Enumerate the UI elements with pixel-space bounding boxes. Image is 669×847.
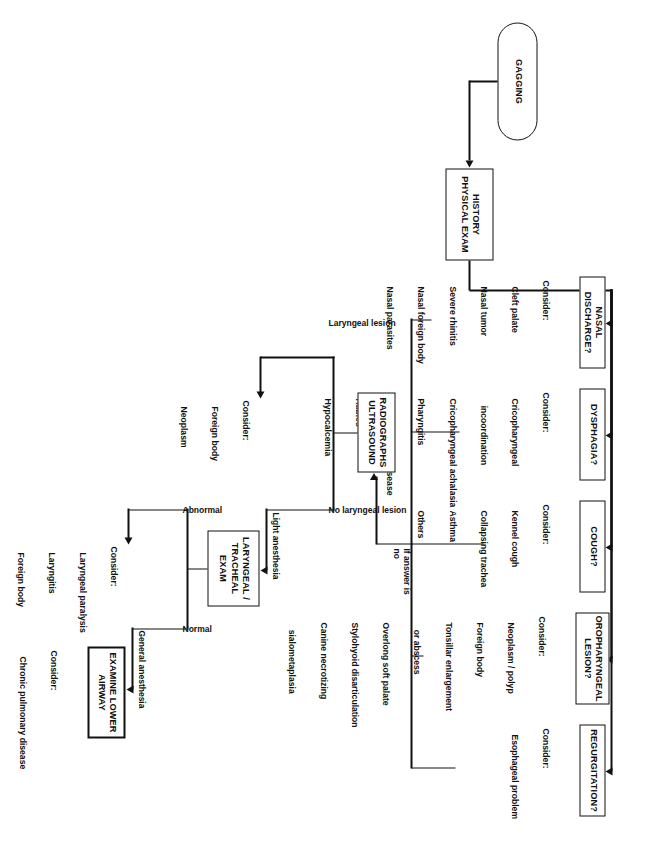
connector-stub-q5 <box>610 289 612 771</box>
consider-item: Asthma <box>446 504 456 587</box>
node-gagging[interactable]: GAGGING <box>497 22 537 140</box>
node-laryngeal-tracheal-exam[interactable]: LARYNGEAL / TRACHEAL EXAM <box>207 530 259 606</box>
arrowhead-to-lower-airway <box>126 685 133 693</box>
consider-item: Collapsing trachea <box>477 504 487 587</box>
node-oropharyngeal-lesion[interactable]: OROPHARYNGEAL LESION? <box>575 612 609 704</box>
connector-bus-drop-q2 <box>411 431 459 433</box>
label-laryngeal-lesion-text: Laryngeal lesion <box>328 317 395 327</box>
consider-header: Consider: <box>48 650 58 769</box>
label-light-anesthesia: Light anesthesia <box>270 512 280 579</box>
connector-imaging-split <box>332 356 334 510</box>
consider-item: Neoplasm / polyp <box>505 616 515 727</box>
consider-cough: Consider: Kennel cough Collapsing trache… <box>394 504 571 587</box>
connector-bus-drop-q3 <box>411 543 483 545</box>
node-nasal-discharge-label: NASAL DISCHARGE? <box>581 280 604 364</box>
consider-regurgitation: Consider: Esophageal problem <box>488 728 571 819</box>
consider-item: Chronic pulmonary disease <box>17 650 27 769</box>
node-regurgitation[interactable]: REGURGITATION? <box>579 724 605 816</box>
consider-item: Nasal tumor <box>477 280 487 363</box>
consider-lower-airway: Consider: Chronic pulmonary disease Feli… <box>0 650 79 769</box>
arrowhead-to-laryngeal-exam <box>260 566 267 574</box>
label-general-anesthesia: General anesthesia <box>136 630 146 708</box>
label-no-laryngeal-lesion: No laryngeal lesion <box>328 505 406 515</box>
consider-item: Others <box>415 504 425 587</box>
connector-no-laryngeal-lesion <box>266 509 334 511</box>
label-laryngeal-lesion: Laryngeal lesion <box>328 318 395 328</box>
node-dysphagia-label: DYSPHAGIA? <box>586 403 598 464</box>
label-if-answer-is-no-text: If answer is no <box>391 548 411 594</box>
arrowhead-q5 <box>605 767 612 775</box>
connector-laryngeal-exam-split <box>186 508 188 628</box>
node-dysphagia[interactable]: DYSPHAGIA? <box>579 388 605 480</box>
node-radiographs-ultrasound[interactable]: RADIOGRAPHS ULTRASOUND <box>357 392 395 472</box>
node-nasal-discharge[interactable]: NASAL DISCHARGE? <box>579 276 605 368</box>
node-cough-label: COUGH? <box>586 526 598 566</box>
label-abnormal-text: Abnormal <box>182 504 222 514</box>
consider-item: Nasal foreign body <box>415 280 425 363</box>
consider-item: Cleft palate <box>509 280 519 363</box>
label-normal: Normal <box>182 624 211 634</box>
node-gagging-label: GAGGING <box>511 58 523 103</box>
consider-header: Consider: <box>540 504 550 587</box>
node-radiographs-ultrasound-label: RADIOGRAPHS ULTRASOUND <box>365 397 388 467</box>
consider-header: Consider: <box>540 280 550 363</box>
connector-gagging-right <box>468 80 470 160</box>
arrowhead-laryngeal-lesion <box>257 391 265 398</box>
label-light-anesthesia-text: Light anesthesia <box>270 512 280 579</box>
consider-item: Neoplasm <box>177 400 187 460</box>
consider-header: Consider: <box>536 616 546 727</box>
consider-item: incoordination <box>477 392 487 507</box>
connector-bus-drop-q4 <box>411 655 423 657</box>
node-regurgitation-label: REGURGITATION? <box>586 729 598 812</box>
consider-item: Foreign body <box>473 616 483 727</box>
label-no-laryngeal-lesion-text: No laryngeal lesion <box>328 504 406 514</box>
connector-laryngeal-lesion <box>260 356 334 358</box>
consider-item: Overlong soft palate <box>380 616 390 727</box>
consider-header: Consider: <box>540 392 550 507</box>
node-oropharyngeal-lesion-label: OROPHARYNGEAL LESION? <box>581 615 604 701</box>
consider-header: Consider: <box>240 400 250 460</box>
connector-laryngeal-lesion-right <box>259 356 261 392</box>
label-general-anesthesia-text: General anesthesia <box>136 630 146 708</box>
connector-light-anesthesia <box>265 508 267 570</box>
connector-normal <box>132 628 188 630</box>
consider-header: Consider: <box>540 728 550 819</box>
node-laryngeal-tracheal-exam-label: LARYNGEAL / TRACHEAL EXAM <box>216 537 251 600</box>
consider-laryngeal-lesion: Consider: Foreign body Neoplasm <box>157 400 271 460</box>
consider-item: sialometaplasia <box>286 616 296 727</box>
consider-item: Laryngeal paralysis <box>77 546 87 632</box>
node-examine-lower-airway[interactable]: EXAMINE LOWER AIRWAY <box>87 646 125 738</box>
consider-item: Foreign body <box>209 400 219 460</box>
label-abnormal: Abnormal <box>182 505 222 515</box>
label-normal-text: Normal <box>182 623 211 633</box>
consider-item: Stylohyoid disarticulation <box>348 616 358 727</box>
consider-abnormal: Consider: Laryngeal paralysis Laryngitis… <box>0 546 139 632</box>
node-cough[interactable]: COUGH? <box>579 500 605 592</box>
consider-dysphagia: Consider: Cricopharyngeal incoordination… <box>300 392 571 507</box>
consider-header: Consider: <box>108 546 118 632</box>
label-if-answer-is-no: If answer is no <box>391 548 411 594</box>
arrowhead-to-history <box>466 160 474 167</box>
consider-item: Cricopharyngeal <box>509 392 519 507</box>
arrowhead-to-imaging <box>370 473 378 480</box>
consider-oropharyngeal-lesion: Consider: Neoplasm / polyp Foreign body … <box>265 616 567 727</box>
flowchart-canvas: GAGGING HISTORY PHYSICAL EXAM NASAL DISC… <box>0 0 669 847</box>
consider-item: Hypocalcemia <box>321 392 331 507</box>
connector-abnormal <box>128 509 188 511</box>
connector-general-anesthesia <box>131 627 133 689</box>
connector-imaging-down <box>333 432 357 434</box>
consider-item: Esophageal problem <box>509 728 519 819</box>
connector-bus-drop-q5 <box>411 767 455 769</box>
connector-gagging-down <box>469 80 497 82</box>
consider-item: Foreign body <box>14 546 24 632</box>
consider-item: Kennel cough <box>509 504 519 587</box>
connector-bus-to-imaging <box>376 543 412 545</box>
consider-item: Tonsillar enlargement <box>442 616 452 727</box>
consider-item: Cricopharyngeal achalasia <box>446 392 456 507</box>
consider-item: Pharyngitis <box>415 392 425 507</box>
consider-item: Severe rhinitis <box>446 280 456 363</box>
consider-item: Canine necrotizing <box>317 616 327 727</box>
node-history-physical-exam[interactable]: HISTORY PHYSICAL EXAM <box>445 168 493 260</box>
connector-laryngeal-exam-down <box>187 568 207 570</box>
connector-bus-drop-q1 <box>411 319 431 321</box>
